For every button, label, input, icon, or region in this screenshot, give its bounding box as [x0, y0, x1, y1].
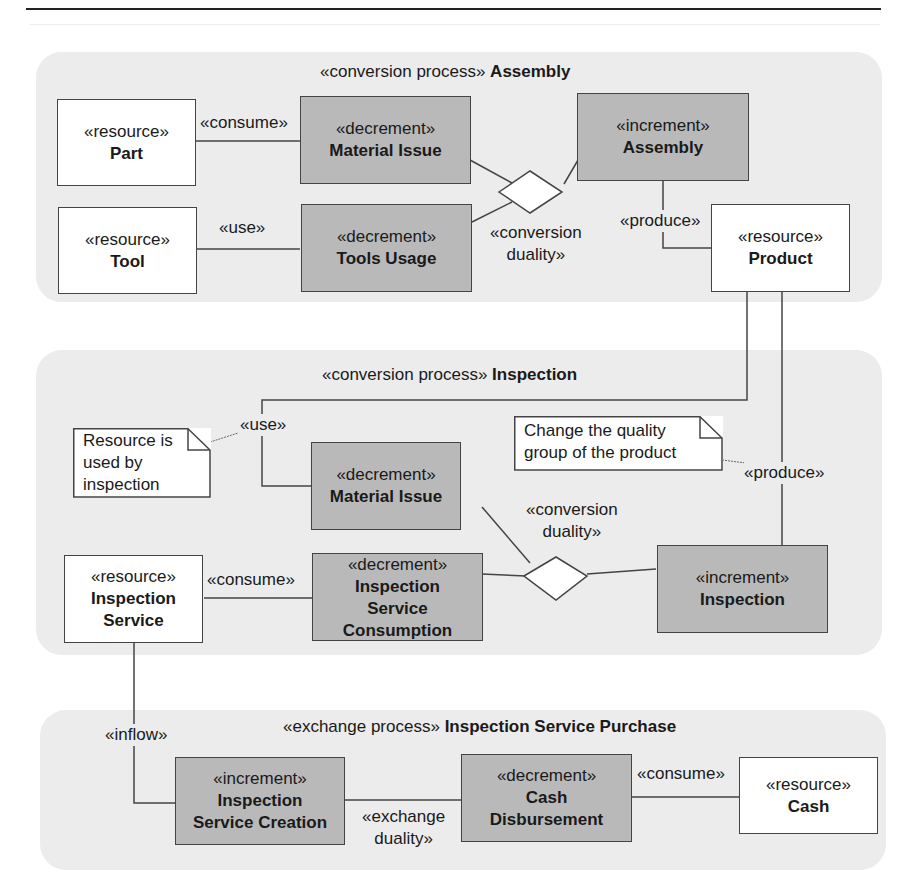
element-name: Disbursement — [490, 809, 603, 831]
element-name: Tool — [110, 251, 145, 273]
stereotype-label: «resource» — [84, 121, 169, 143]
stereotype-label: «increment» — [696, 567, 790, 589]
element-name: Inspection — [91, 588, 176, 610]
stereotype-label: «decrement» — [336, 464, 435, 486]
note-line: Change the quality — [524, 420, 676, 442]
conversion-duality-diamond-inspection — [524, 557, 587, 600]
note-line: Resource is — [83, 430, 173, 452]
stereotype-label: «decrement» — [497, 765, 596, 787]
resource-product[interactable]: «resource» Product — [711, 204, 850, 292]
event-material-issue-assembly[interactable]: «decrement» Material Issue — [300, 96, 471, 184]
conversion-duality-diamond-assembly — [499, 171, 562, 213]
produce-label-inspection: «produce» — [744, 462, 824, 484]
consume-label-inspection: «consume» — [207, 569, 295, 591]
resource-cash[interactable]: «resource» Cash — [739, 757, 878, 834]
event-tools-usage[interactable]: «decrement» Tools Usage — [301, 204, 472, 292]
resource-tool[interactable]: «resource» Tool — [58, 207, 197, 294]
element-name: Inspection — [700, 589, 785, 611]
element-name: Consumption — [343, 620, 453, 642]
use-label-inspection: «use» — [240, 414, 286, 436]
stereotype-label: «decrement» — [348, 554, 447, 576]
stereotype-label: «decrement» — [337, 226, 436, 248]
element-name: Inspection — [217, 790, 302, 812]
element-name: Service — [103, 610, 164, 632]
event-inspection-service-creation[interactable]: «increment» Inspection Service Creation — [175, 757, 345, 845]
element-name: Assembly — [623, 137, 703, 159]
consume-label-cash: «consume» — [637, 763, 725, 785]
element-name: Material Issue — [330, 486, 442, 508]
consume-label-part: «consume» — [200, 112, 288, 134]
event-material-issue-inspection[interactable]: «decrement» Material Issue — [311, 442, 461, 530]
note-resource-used: Resource is used by inspection — [73, 428, 211, 498]
stereotype-label: «resource» — [766, 774, 851, 796]
element-name: Cash — [526, 787, 568, 809]
note-change-quality: Change the quality group of the product — [514, 416, 723, 471]
element-name: Cash — [788, 796, 830, 818]
stereotype-label: «increment» — [616, 115, 710, 137]
duality-label-line: «conversion — [490, 222, 582, 244]
note-line: used by — [83, 452, 173, 474]
inflow-label: «inflow» — [105, 724, 167, 746]
conversion-duality-label-inspection: «conversion duality» — [526, 499, 618, 543]
element-name: Tools Usage — [337, 248, 437, 270]
stereotype-label: «resource» — [738, 226, 823, 248]
event-cash-disbursement[interactable]: «decrement» Cash Disbursement — [461, 754, 632, 842]
element-name: Part — [110, 143, 143, 165]
element-name: Inspection — [355, 576, 440, 598]
element-name: Service Creation — [193, 812, 327, 834]
stereotype-label: «decrement» — [336, 118, 435, 140]
element-name: Material Issue — [329, 140, 441, 162]
duality-label-line: duality» — [490, 244, 582, 266]
produce-label-product: «produce» — [620, 210, 700, 232]
element-name: Product — [748, 248, 812, 270]
conversion-duality-label-assembly: «conversion duality» — [490, 222, 582, 266]
duality-label-line: duality» — [362, 828, 445, 850]
stereotype-label: «resource» — [91, 566, 176, 588]
use-label-tool: «use» — [219, 217, 265, 239]
event-assembly-increment[interactable]: «increment» Assembly — [577, 93, 749, 181]
note-line: inspection — [83, 474, 173, 496]
stereotype-label: «increment» — [213, 768, 307, 790]
note-line: group of the product — [524, 442, 676, 464]
duality-label-line: «exchange — [362, 806, 445, 828]
exchange-duality-label: «exchange duality» — [362, 806, 445, 850]
event-inspection-increment[interactable]: «increment» Inspection — [657, 545, 828, 633]
resource-part[interactable]: «resource» Part — [57, 99, 196, 186]
duality-label-line: duality» — [526, 521, 618, 543]
duality-label-line: «conversion — [526, 499, 618, 521]
resource-inspection-service[interactable]: «resource» Inspection Service — [64, 555, 203, 643]
element-name: Service — [367, 598, 428, 620]
stereotype-label: «resource» — [85, 229, 170, 251]
event-inspection-service-consumption[interactable]: «decrement» Inspection Service Consumpti… — [312, 553, 483, 641]
